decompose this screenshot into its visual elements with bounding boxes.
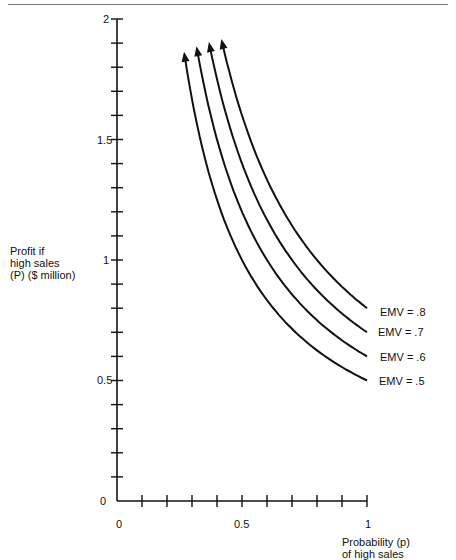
y-tick-label-1: 1 [103,254,109,266]
arrowhead-icon [207,42,215,53]
x-tick-label-0: 0 [116,518,122,530]
y-tick-label-0.5: 0.5 [97,374,112,386]
emv-label-0.8: EMV = .8 [380,306,426,318]
x-tick-label-0.5: 0.5 [234,518,249,530]
emv-curves [182,39,367,380]
emv-label-0.7: EMV = .7 [378,326,424,338]
y-axis-label-line1: Profit if [10,245,75,257]
axes [111,19,367,507]
y-axis-label-line3: (P) ($ million) [10,269,75,281]
emv-curve [185,55,368,381]
x-axis-label-line2: of high sales [342,548,410,560]
y-axis-label-line2: high sales [10,257,75,269]
y-tick-label-1.5: 1.5 [97,134,112,146]
arrowhead-icon [182,52,190,62]
emv-curve [222,42,367,308]
y-tick-label-0: 0 [100,495,106,507]
emv-curve [197,49,367,356]
arrowhead-icon [194,46,202,57]
x-tick-label-1: 1 [365,518,371,530]
emv-label-0.5: EMV = .5 [379,375,425,387]
x-axis-label: Probability (p) of high sales [342,536,410,560]
y-tick-label-2: 2 [103,13,109,25]
emv-label-0.6: EMV = .6 [380,351,426,363]
arrowhead-icon [220,39,228,50]
x-axis-label-line1: Probability (p) [342,536,410,548]
y-axis-label: Profit if high sales (P) ($ million) [10,245,75,281]
